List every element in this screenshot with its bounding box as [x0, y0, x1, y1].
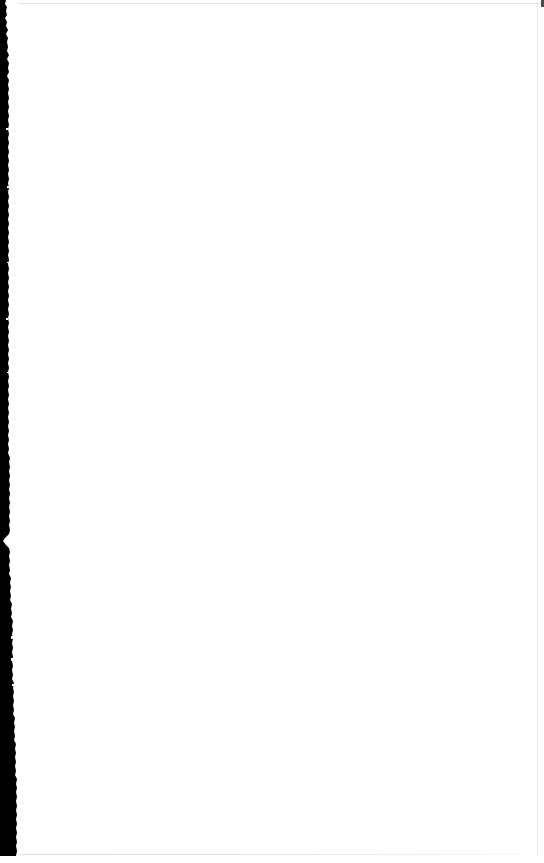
binding-shadow-shape — [0, 0, 20, 856]
top-edge-rule — [18, 3, 544, 4]
left-binding-shadow — [0, 0, 20, 856]
page-surface — [0, 0, 544, 863]
scanned-page — [0, 0, 544, 863]
bottom-edge-rule — [20, 854, 520, 855]
right-edge-rule — [537, 2, 538, 855]
